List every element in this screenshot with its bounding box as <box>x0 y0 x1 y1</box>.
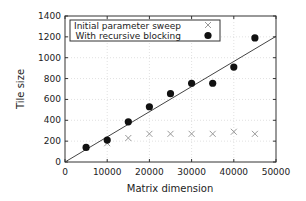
y-tick-label: 1200 <box>38 32 61 42</box>
x-tick-label: 30000 <box>177 167 206 177</box>
y-tick-label: 0 <box>55 157 61 167</box>
legend-dot-icon <box>204 32 211 39</box>
cross-marker <box>125 135 131 141</box>
dot-marker <box>209 80 216 87</box>
y-tick-label: 800 <box>44 74 61 84</box>
x-tick-label: 40000 <box>219 167 248 177</box>
series-initial-parameter-sweep <box>104 129 258 146</box>
cross-marker <box>210 131 216 137</box>
y-axis-label: Tile size <box>15 69 26 110</box>
fit-line <box>65 36 276 162</box>
y-tick-label: 1400 <box>38 11 61 21</box>
x-tick-label: 50000 <box>262 167 291 177</box>
dot-marker <box>125 118 132 125</box>
dot-marker <box>146 103 153 110</box>
scatter-plot: 01000020000300004000050000 0200400600800… <box>0 0 306 201</box>
x-tick-label: 20000 <box>135 167 164 177</box>
x-tick-label: 10000 <box>93 167 122 177</box>
y-tick-label: 200 <box>44 136 61 146</box>
y-tick-label: 400 <box>44 115 61 125</box>
cross-marker <box>189 131 195 137</box>
legend: Initial parameter sweep With recursive b… <box>70 20 220 41</box>
legend-label-initial-sweep: Initial parameter sweep <box>74 21 181 31</box>
dot-marker <box>251 34 258 41</box>
dot-marker <box>83 144 90 151</box>
dot-marker <box>230 64 237 71</box>
legend-label-recursive-blocking: With recursive blocking <box>76 31 181 41</box>
cross-marker <box>252 131 258 137</box>
y-tick-label: 1000 <box>38 53 61 63</box>
dot-marker <box>167 90 174 97</box>
y-tick-label: 600 <box>44 94 61 104</box>
dot-marker <box>188 80 195 87</box>
dot-marker <box>104 137 111 144</box>
cross-marker <box>168 131 174 137</box>
chart: 01000020000300004000050000 0200400600800… <box>0 0 306 201</box>
cross-marker <box>146 131 152 137</box>
x-axis-label: Matrix dimension <box>127 183 213 194</box>
x-tick-label: 0 <box>62 167 68 177</box>
